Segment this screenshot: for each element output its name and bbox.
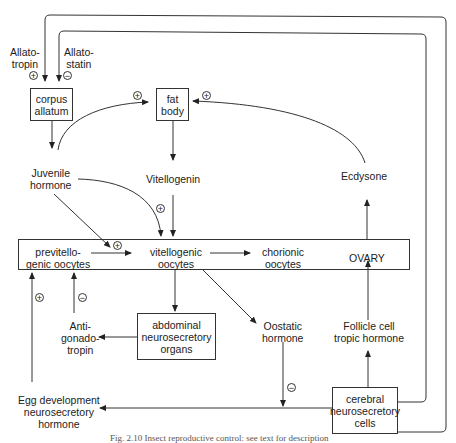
minus-sign-icon: −	[63, 71, 72, 80]
allatotropin-label: Allato- tropin	[10, 46, 40, 70]
vitellogenin-label: Vitellogenin	[146, 173, 200, 185]
antigonadotropin-label: Anti- gonado- tropin	[61, 320, 100, 356]
figure-caption: Fig. 2.10 Insect reproductive control: s…	[110, 433, 328, 443]
plus-sign-icon: +	[133, 91, 142, 100]
plus-sign-icon: +	[29, 71, 38, 80]
plus-sign-icon: +	[156, 204, 165, 213]
allatostatin-label: Allato- statin	[64, 46, 94, 70]
chorionic-oocytes-label: chorionic oocytes	[262, 246, 304, 270]
plus-sign-icon: +	[202, 91, 211, 100]
corpus-allatum-box: corpus allatum	[30, 88, 73, 121]
plus-sign-icon: +	[35, 293, 44, 302]
oostatic-hormone-label: Oostatic hormone	[262, 320, 303, 344]
abdominal-neurosecretory-organs-box: abdominal neurosecretory organs	[137, 313, 216, 360]
ecdysone-label: Ecdysone	[341, 170, 387, 182]
minus-sign-icon: −	[287, 383, 296, 392]
juvenile-hormone-label: Juvenile hormone	[30, 167, 71, 191]
follicle-cell-tropic-hormone-label: Follicle cell tropic hormone	[334, 320, 404, 344]
previtellogenic-oocytes-label: previtello- genic oocytes	[26, 246, 90, 270]
minus-sign-icon: −	[78, 293, 87, 302]
fat-body-box: fat body	[156, 88, 189, 121]
egg-development-neurosecretory-hormone-label: Egg development neurosecretory hormone	[18, 394, 100, 430]
plus-sign-icon: +	[113, 241, 122, 250]
vitellogenic-oocytes-label: vitellogenic oocytes	[150, 246, 202, 270]
ovary-label: OVARY	[349, 252, 385, 264]
cerebral-neurosecretory-cells-box: cerebral neurosecretory cells	[332, 387, 398, 434]
